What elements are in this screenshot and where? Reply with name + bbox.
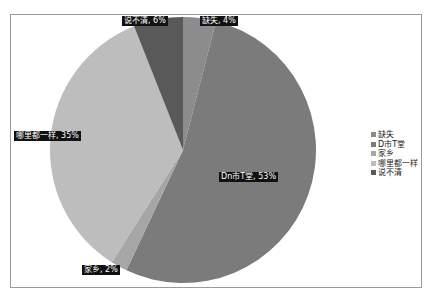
legend-item: 家乡 [371,149,418,159]
pie-chart [0,0,431,300]
legend-swatch [371,151,376,156]
legend: 缺失 D市T堂 家乡 哪里都一样 说不清 [371,130,418,178]
legend-swatch [371,161,376,166]
legend-swatch [371,142,376,147]
legend-item: 缺失 [371,130,418,140]
legend-item: 说不清 [371,168,418,178]
data-label-anywhere: 哪里都一样, 35% [14,131,81,141]
data-label-missing: 缺失, 4% [200,16,238,26]
legend-swatch [371,170,376,175]
legend-swatch [371,132,376,137]
data-label-city: Dn市T堂, 53% [219,172,278,182]
data-label-hometown: 家乡, 2% [82,265,120,275]
legend-item: 哪里都一样 [371,159,418,169]
legend-item: D市T堂 [371,140,418,150]
data-label-unsure: 说不清, 6% [122,16,168,26]
